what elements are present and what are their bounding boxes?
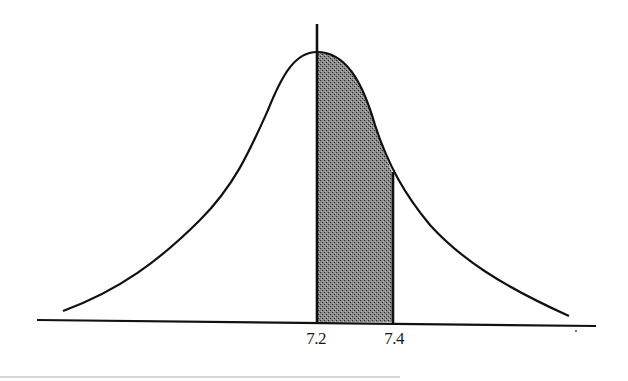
- scan-dot: [575, 330, 577, 332]
- shaded-area: [317, 52, 393, 322]
- tick-label-7-2: 7.2: [306, 329, 326, 349]
- normal-curve-chart: [0, 0, 628, 381]
- tick-label-7-4: 7.4: [384, 329, 404, 349]
